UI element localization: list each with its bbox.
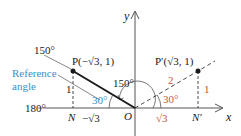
right-base-label: √3 <box>156 112 168 124</box>
point-p-prime-label: P′(√3, 1) <box>155 55 194 68</box>
right-hyp-label: 2 <box>168 74 174 86</box>
label-150-terminal: 150° <box>34 44 55 56</box>
origin-label: O <box>124 110 132 122</box>
left-base-label: −√3 <box>82 112 100 124</box>
reference-annotation-line2: angle <box>12 80 36 92</box>
point-p-label: P(−√3, 1) <box>72 55 115 68</box>
label-30-right: 30° <box>163 93 178 105</box>
reference-annotation-line1: Reference <box>12 67 57 79</box>
y-axis-label: y <box>123 9 130 23</box>
arc-30-right <box>157 95 161 108</box>
arc-30-left <box>109 95 113 108</box>
label-30-left: 30° <box>92 94 107 106</box>
left-height-label: 1 <box>66 83 72 95</box>
label-180: 180° <box>25 102 46 114</box>
label-150-arc: 150° <box>113 77 134 89</box>
x-axis-label: x <box>225 110 232 124</box>
point-n-label: N <box>67 111 76 123</box>
point-n-prime-label: N′ <box>191 111 202 123</box>
reference-angle-diagram: y x O 150° 180° 150° 30° 30° P(−√3, 1) P… <box>0 0 241 136</box>
right-height-label: 1 <box>204 83 210 95</box>
